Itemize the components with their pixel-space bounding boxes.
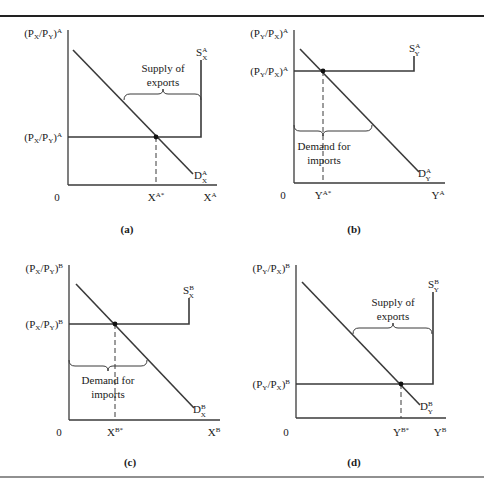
y-axis-label: (PX/PY)B — [26, 262, 64, 276]
panel-c: Demand for imports (PX/PY)B (PX/PY)B 0 X… — [26, 262, 221, 469]
price-level-label: (PY/PX)B — [253, 378, 291, 392]
panel-caption: (d) — [347, 456, 361, 469]
supply-of-exports-brace — [124, 89, 201, 100]
equilibrium-point — [154, 135, 159, 140]
brace-label-line1: Supply of — [371, 296, 414, 308]
equilibrium-point — [399, 382, 404, 387]
demand-label: DBX — [193, 403, 206, 419]
origin-label: 0 — [56, 426, 62, 438]
demand-for-imports-brace — [69, 360, 147, 371]
panel-b: Demand for imports (PY/PX)A (PY/PX)A 0 Y… — [250, 27, 445, 236]
trade-equilibrium-figure: Supply of exports (PX/PY)A (PX/PY)A 0 XA… — [0, 0, 484, 490]
brace-label-line2: imports — [307, 154, 341, 166]
panel-caption: (a) — [121, 223, 134, 236]
price-level-label: (PX/PY)B — [26, 318, 64, 332]
panel-a: Supply of exports (PX/PY)A (PX/PY)A 0 XA… — [24, 27, 217, 236]
panel-caption: (c) — [124, 456, 137, 469]
brace-label-line1: Demand for — [82, 374, 135, 386]
x-axis-label: YB — [434, 426, 447, 438]
demand-label: DBY — [420, 400, 433, 416]
y-axis-label: (PY/PX)A — [250, 27, 288, 41]
equilibrium-quantity-label: XB* — [107, 426, 124, 438]
price-level-label: (PX/PY)A — [24, 131, 62, 145]
supply-of-exports-brace — [353, 323, 432, 334]
equilibrium-point — [321, 69, 326, 74]
demand-label: DAX — [194, 169, 207, 185]
y-axis-label: (PX/PY)A — [24, 27, 62, 41]
x-axis-label: YA — [431, 189, 444, 201]
equilibrium-quantity-label: YB* — [393, 426, 410, 438]
equilibrium-quantity-label: XA* — [148, 191, 165, 203]
brace-label-line2: imports — [91, 388, 125, 400]
supply-label: SAX — [196, 46, 207, 62]
equilibrium-point — [113, 322, 118, 327]
origin-label: 0 — [283, 426, 289, 438]
brace-label-line2: exports — [147, 76, 179, 88]
supply-label: SAY — [409, 42, 420, 58]
origin-label: 0 — [54, 191, 60, 203]
y-axis-label: (PY/PX)B — [253, 262, 291, 276]
x-axis-label: XB — [208, 426, 221, 438]
equilibrium-quantity-label: YA* — [315, 189, 332, 201]
supply-curve — [294, 56, 414, 71]
demand-label: DAY — [418, 167, 431, 183]
supply-curve — [69, 298, 189, 324]
price-level-label: (PY/PX)A — [250, 65, 288, 79]
brace-label-line2: exports — [377, 310, 409, 322]
demand-for-imports-brace — [294, 125, 372, 136]
supply-label: SBY — [428, 278, 439, 294]
supply-label: SBX — [183, 284, 194, 300]
brace-label-line1: Supply of — [141, 62, 184, 74]
panel-caption: (b) — [347, 223, 361, 236]
panel-d: Supply of exports (PY/PX)B (PY/PX)B 0 YB… — [253, 262, 447, 469]
brace-label-line1: Demand for — [298, 140, 351, 152]
x-axis-label: XA — [203, 191, 216, 203]
origin-label: 0 — [280, 189, 286, 201]
